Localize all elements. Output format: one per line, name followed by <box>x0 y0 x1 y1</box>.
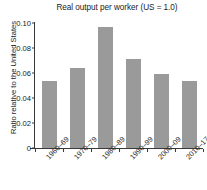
y-tick-label: 0.02 <box>16 119 31 128</box>
x-tick-mark <box>35 149 36 152</box>
x-tick-mark <box>203 149 204 152</box>
bar <box>42 81 57 149</box>
bar <box>98 27 113 148</box>
y-tick-label: 0 <box>27 144 31 153</box>
chart-title: Real output per worker (US = 1.0) <box>28 3 206 12</box>
y-tick-label: 0.08 <box>16 44 31 53</box>
bar <box>154 74 169 148</box>
y-tick-label: 0.10 <box>16 19 31 28</box>
plot-area: 00.020.040.060.080.10 1960–691970–791980… <box>35 23 203 148</box>
chart-figure: Real output per worker (US = 1.0) Ratio … <box>0 0 207 190</box>
bar <box>182 81 197 149</box>
x-tick-mark <box>63 149 64 152</box>
y-tick-mark <box>32 23 35 24</box>
x-tick-mark <box>119 149 120 152</box>
x-tick-mark <box>147 149 148 152</box>
x-tick-mark <box>91 149 92 152</box>
y-axis-line <box>34 22 35 148</box>
bar <box>70 68 85 148</box>
bar <box>126 59 141 148</box>
x-tick-mark <box>175 149 176 152</box>
y-tick-label: 0.04 <box>16 94 31 103</box>
y-tick-mark <box>32 98 35 99</box>
y-tick-mark <box>32 123 35 124</box>
y-tick-mark <box>32 73 35 74</box>
y-tick-mark <box>32 48 35 49</box>
y-tick-label: 0.06 <box>16 69 31 78</box>
